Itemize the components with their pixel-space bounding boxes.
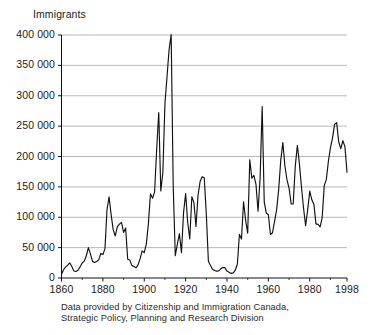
y-tick-label: 100 000 xyxy=(3,210,55,222)
y-tick-label: 50 000 xyxy=(3,241,55,253)
y-tick-label: 350 000 xyxy=(3,58,55,70)
immigration-chart-figure: Immigrants 400 000350 000300 000250 0002… xyxy=(0,0,370,335)
x-tick-label: 1960 xyxy=(245,283,291,295)
y-tick-label: 150 000 xyxy=(3,180,55,192)
y-tick-label: 250 000 xyxy=(3,119,55,131)
source-caption: Data provided by Citizenship and Immigra… xyxy=(61,302,361,323)
y-tick-label: 300 000 xyxy=(3,89,55,101)
axis-ticks xyxy=(58,35,347,282)
x-tick-label: 1900 xyxy=(121,283,167,295)
y-tick-label: 200 000 xyxy=(3,150,55,162)
x-tick-label: 1998 xyxy=(324,283,370,295)
y-tick-label: 400 000 xyxy=(3,28,55,40)
y-tick-label: 0 xyxy=(3,271,55,283)
x-tick-label: 1880 xyxy=(80,283,126,295)
x-tick-label: 1920 xyxy=(163,283,209,295)
caption-line-1: Data provided by Citizenship and Immigra… xyxy=(61,302,361,313)
x-tick-label: 1940 xyxy=(204,283,250,295)
x-tick-label: 1860 xyxy=(39,283,85,295)
immigrants-line-series xyxy=(62,34,348,274)
caption-line-2: Strategic Policy, Planning and Research … xyxy=(61,313,361,324)
